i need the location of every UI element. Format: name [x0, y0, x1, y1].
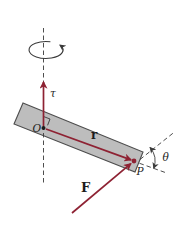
origin-label: O [33, 122, 42, 134]
position-vector-label: r [91, 128, 98, 142]
torque-diagram: τ O r P F θ [0, 0, 178, 226]
force-label: F [81, 180, 91, 195]
origin-point [42, 126, 46, 130]
angle-label: θ [163, 151, 170, 163]
point-p-label: P [136, 165, 145, 177]
point-p-dot [132, 159, 137, 164]
rod-extension-dashed-line [140, 163, 168, 173]
rotation-arrow-icon [29, 42, 63, 59]
torque-label: τ [50, 87, 56, 99]
angle-arc [150, 148, 155, 169]
force-extension-dashed-line [140, 132, 175, 160]
diagram-canvas: τ O r P F θ [0, 0, 178, 226]
rod [14, 103, 143, 172]
